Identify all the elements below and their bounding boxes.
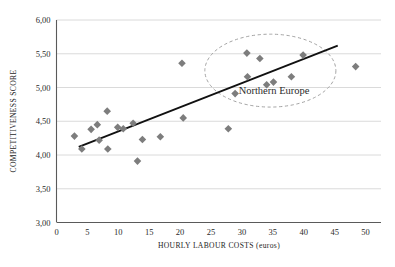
y-axis-title: COMPETITIVENESS SCORE [9,70,18,173]
x-tick-label: 40 [299,227,308,237]
x-tick-label: 25 [207,227,216,237]
y-tick-label: 3,50 [36,184,51,194]
y-tick-label: 6,00 [36,15,51,25]
annotation-label: Northern Europe [239,85,310,96]
x-tick-label: 15 [145,227,154,237]
x-tick-label: 5 [85,227,89,237]
scatter-plot-svg: 3,003,504,004,505,005,506,00 05101520253… [0,0,395,267]
x-tick-label: 35 [269,227,278,237]
chart-figure: 3,003,504,004,505,005,506,00 05101520253… [0,0,395,267]
y-tick-label: 5,00 [36,83,51,93]
annotation-labels-group: Northern Europe [239,85,310,96]
x-tick-label: 45 [330,227,339,237]
x-axis-title: HOURLY LABOUR COSTS (euros) [158,241,280,250]
y-tick-label: 5,50 [36,49,51,59]
x-tick-label: 50 [361,227,370,237]
y-tick-label: 4,00 [36,150,51,160]
x-tick-label: 30 [238,227,247,237]
y-tick-label: 3,00 [36,218,51,228]
x-tick-label: 0 [54,227,58,237]
y-tick-label: 4,50 [36,116,51,126]
x-tick-label: 10 [114,227,123,237]
x-tick-label: 20 [176,227,185,237]
